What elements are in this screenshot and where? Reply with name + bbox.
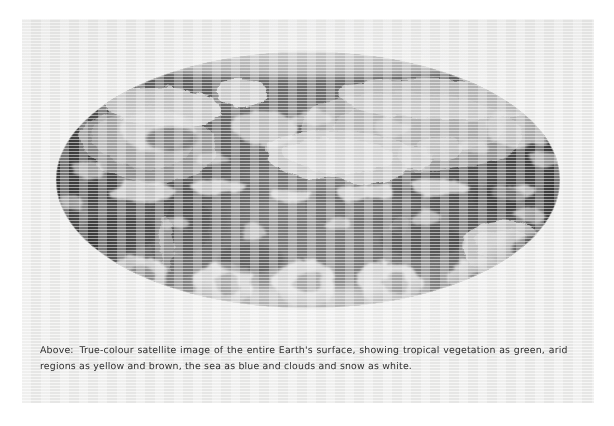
caption-lead: Above: <box>40 345 74 356</box>
globe-disc <box>22 19 594 319</box>
earth-satellite-image <box>22 19 594 319</box>
caption-line-1-text: True-colour satellite image of the entir… <box>79 345 567 356</box>
scanned-page-sheet: Above: True-colour satellite image of th… <box>22 19 594 403</box>
caption-line-2: regions as yellow and brown, the sea as … <box>40 359 580 375</box>
earth-figure <box>22 19 594 319</box>
figure-caption: Above: True-colour satellite image of th… <box>40 343 580 374</box>
limb-shading <box>22 19 594 319</box>
caption-line-1: Above: True-colour satellite image of th… <box>40 343 580 359</box>
